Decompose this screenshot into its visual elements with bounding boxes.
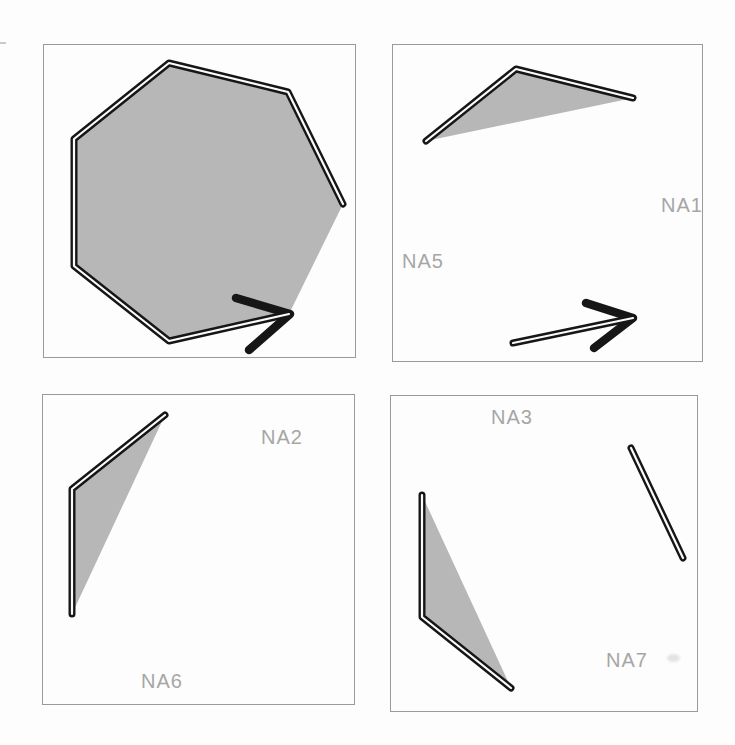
figure: NA1 NA5 NA2 NA6 NA3 NA7 [0, 0, 735, 745]
outline-track-core [631, 448, 683, 558]
label-na6: NA6 [141, 671, 183, 691]
shape-fill [426, 69, 633, 141]
panel-canvas-top-right [393, 45, 702, 361]
print-artifact [667, 654, 680, 662]
label-na1: NA1 [661, 195, 703, 215]
panel-canvas-top-left [44, 45, 355, 357]
label-na2: NA2 [261, 427, 303, 447]
panel-canvas-bottom-left [43, 395, 354, 704]
panel-canvas-bottom-right [391, 396, 697, 711]
shape-fill [422, 495, 511, 688]
panel-top-right [392, 44, 703, 362]
label-na7: NA7 [606, 650, 648, 670]
panel-bottom-right [390, 395, 698, 712]
shape-fill [72, 415, 165, 614]
print-speck [0, 42, 6, 44]
panel-top-left [43, 44, 356, 358]
label-na3: NA3 [491, 407, 533, 427]
panel-bottom-left [42, 394, 355, 705]
label-na5: NA5 [402, 251, 444, 271]
